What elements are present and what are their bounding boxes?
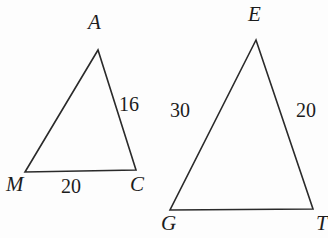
side-length-et: 20 [296,100,316,120]
side-length-mc: 20 [61,176,81,196]
vertex-label-t: T [316,213,328,234]
vertex-label-e: E [248,4,261,25]
side-length-ge: 30 [170,100,190,120]
side-length-ac: 16 [119,94,139,114]
vertex-label-a: A [88,12,101,33]
vertex-label-m: M [6,174,24,195]
triangle-get-shape [170,40,313,210]
vertex-label-g: G [161,213,176,234]
vertex-label-c: C [130,174,144,195]
triangle-get-outline [170,40,313,210]
